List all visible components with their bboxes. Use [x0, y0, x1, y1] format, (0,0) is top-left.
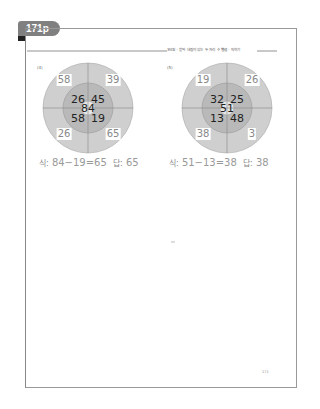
inner-bottom-right: 48 [230, 113, 244, 124]
outer-bottom-right-box: 3 [248, 128, 256, 140]
equation-label: 식: [169, 159, 179, 168]
inner-bottom-right: 19 [91, 113, 105, 124]
outer-top-right-box: 39 [106, 74, 121, 86]
answer-text: 38 [256, 157, 269, 168]
equation-text: 51−13=38 [182, 157, 237, 168]
problem-label: (5) [167, 65, 173, 70]
answer-text: 65 [126, 157, 139, 168]
target-diagram: 32 25 51 13 48 19 26 38 3 [181, 62, 273, 154]
outer-bottom-left-box: 38 [196, 128, 211, 140]
equation-label: 식: [39, 159, 49, 168]
inner-bottom-left: 58 [71, 113, 85, 124]
header-rule [27, 50, 167, 52]
outer-bottom-right-box: 65 [106, 128, 121, 140]
target-diagram: 26 45 84 58 19 58 39 26 65 [42, 62, 134, 154]
inner-bottom-left: 13 [210, 113, 224, 124]
section-title: 3단원 · 받아 내림이 있는 두 자리 수 뺄셈 · 익히기 [167, 47, 240, 52]
outer-top-right-box: 26 [245, 74, 260, 86]
equation-text: 84−19=65 [52, 157, 107, 168]
answer-label: 답: [113, 159, 123, 168]
outer-top-left-box: 19 [196, 74, 211, 86]
page-number: 171 [262, 370, 269, 374]
center-mark [171, 241, 175, 243]
equation-line: 식: 51−13=38 답: 38 [169, 157, 269, 168]
answer-label: 답: [243, 159, 253, 168]
outer-bottom-left-box: 26 [57, 128, 72, 140]
header-rule-tail [257, 50, 277, 52]
outer-top-left-box: 58 [57, 74, 72, 86]
equation-line: 식: 84−19=65 답: 65 [39, 157, 139, 168]
